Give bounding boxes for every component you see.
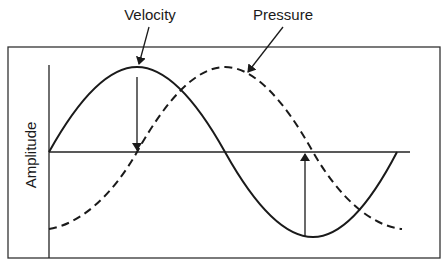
wave-diagram: Amplitude Velocity Pressure — [0, 0, 442, 261]
pressure-curve — [49, 67, 402, 229]
velocity-label: Velocity — [124, 6, 176, 23]
velocity-pointer-arrow — [139, 27, 149, 64]
pressure-pointer-arrow — [248, 27, 283, 72]
y-axis-label: Amplitude — [22, 122, 39, 189]
pressure-label: Pressure — [253, 6, 313, 23]
